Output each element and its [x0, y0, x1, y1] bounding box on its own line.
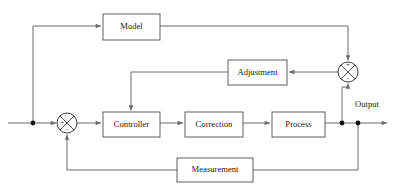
wire-branch-up-to-model — [33, 26, 101, 123]
input-branch-dot — [31, 121, 36, 126]
wire-model-to-right-sum — [160, 26, 348, 61]
block-correction[interactable]: Correction — [185, 112, 243, 137]
process-label: Process — [285, 119, 312, 129]
adjustment-label: Adjustment — [237, 67, 278, 77]
summing-junction-left[interactable]: + − — [57, 113, 77, 133]
block-controller[interactable]: Controller — [103, 112, 160, 137]
measurement-label: Measurement — [192, 164, 239, 174]
correction-label: Correction — [196, 119, 233, 129]
control-loop-diagram: Model Adjustment Controller Correction P… — [0, 0, 399, 195]
block-process[interactable]: Process — [272, 112, 325, 137]
left-sum-plus-sign: + — [60, 119, 64, 126]
wire-adjustment-to-controller — [131, 72, 228, 111]
block-diagram-canvas: Model Adjustment Controller Correction P… — [0, 0, 399, 195]
right-sum-plus-sign: + — [346, 61, 350, 68]
wire-measurement-to-left-sum — [67, 135, 177, 171]
summing-junction-right[interactable]: + − — [338, 61, 358, 82]
block-measurement[interactable]: Measurement — [177, 158, 253, 182]
block-adjustment[interactable]: Adjustment — [228, 60, 287, 85]
left-sum-minus-sign: − — [65, 126, 69, 133]
output-label: Output — [355, 99, 379, 109]
wire-output-to-right-sum — [342, 84, 348, 124]
right-sum-minus-sign: − — [346, 75, 350, 82]
output-branch-dot-b — [356, 121, 361, 126]
controller-label: Controller — [114, 119, 149, 129]
output-branch-dot-a — [340, 121, 345, 126]
wire-layer — [8, 26, 387, 170]
model-label: Model — [120, 21, 143, 31]
block-model[interactable]: Model — [103, 14, 160, 40]
